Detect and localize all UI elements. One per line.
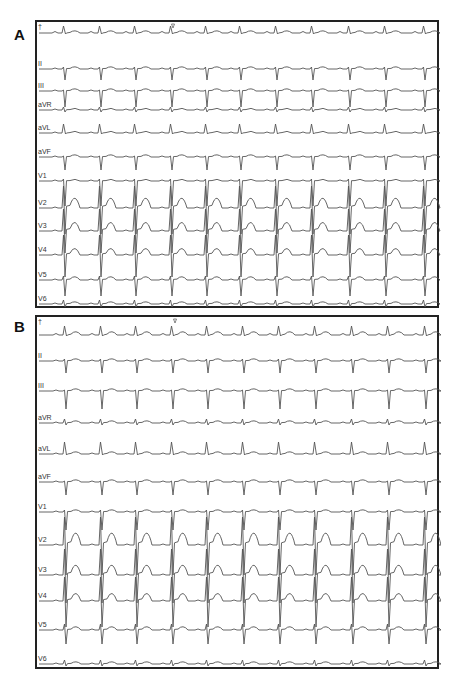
lead-label-avf: aVF: [38, 473, 51, 480]
lead-label-avr: aVR: [38, 101, 52, 108]
panel-label-b: B: [14, 318, 25, 335]
lead-label-avl: aVL: [38, 124, 50, 131]
ecg-lead-trace-v1: [39, 510, 441, 530]
lead-label-ii: II: [38, 60, 42, 67]
lead-label-v2: V2: [38, 199, 47, 206]
calibration-marker-icon: †: [38, 23, 42, 30]
lead-label-v4: V4: [38, 246, 47, 253]
lead-label-iii: III: [38, 382, 44, 389]
ecg-lead-trace-v6: [39, 300, 440, 307]
ecg-lead-trace-avr: [39, 107, 440, 112]
event-marker-icon: [172, 24, 175, 28]
ecg-lead-trace-ii: [39, 67, 440, 80]
event-marker-icon: [174, 319, 177, 323]
lead-label-ii: II: [38, 352, 42, 359]
calibration-marker-icon: †: [38, 318, 42, 325]
ecg-lead-trace-avf: [39, 480, 441, 495]
ecg-lead-trace-v4: [39, 235, 440, 277]
ecg-lead-trace-v5: [39, 276, 440, 296]
ecg-lead-trace-avr: [39, 419, 441, 425]
ecg-lead-trace-v5: [39, 624, 441, 644]
lead-label-v5: V5: [38, 271, 47, 278]
lead-label-v3: V3: [38, 222, 47, 229]
ecg-lead-trace-iii: [39, 389, 441, 409]
ecg-lead-trace-v4: [39, 577, 441, 627]
lead-label-v1: V1: [38, 503, 47, 510]
lead-label-v1: V1: [38, 172, 47, 179]
ecg-lead-trace-avf: [39, 155, 440, 170]
ecg-panel-b: IIIIIaVRaVLaVFV1V2V3V4V5V6†: [35, 315, 439, 669]
ecg-lead-trace-v6: [39, 660, 441, 666]
lead-label-avl: aVL: [38, 445, 50, 452]
ecg-lead-trace-i: [39, 26, 440, 34]
ecg-lead-trace-avl: [39, 442, 441, 455]
panel-label-a: A: [14, 26, 25, 43]
lead-label-avr: aVR: [38, 414, 52, 421]
ecg-lead-trace-ii: [39, 359, 441, 373]
ecg-lead-trace-i: [39, 326, 441, 336]
ecg-lead-trace-avl: [39, 124, 440, 134]
lead-label-v2: V2: [38, 536, 47, 543]
lead-label-v4: V4: [38, 592, 47, 599]
lead-label-v3: V3: [38, 566, 47, 573]
lead-label-v6: V6: [38, 295, 47, 302]
ecg-traces: [37, 22, 441, 310]
lead-label-v5: V5: [38, 621, 47, 628]
ecg-panel-a: IIIIIaVRaVLaVFV1V2V3V4V5V6†: [35, 20, 439, 308]
lead-label-v6: V6: [38, 655, 47, 662]
ecg-lead-trace-iii: [39, 89, 440, 107]
ecg-traces: [37, 317, 441, 671]
lead-label-avf: aVF: [38, 148, 51, 155]
lead-label-iii: III: [38, 82, 44, 89]
